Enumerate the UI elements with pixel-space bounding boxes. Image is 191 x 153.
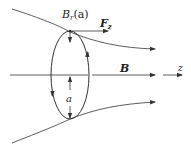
field-label: B bbox=[119, 62, 129, 75]
axis-label: z bbox=[177, 63, 183, 73]
lower-field-line bbox=[12, 102, 155, 143]
radius-label: a bbox=[66, 93, 72, 104]
diagram-canvas: Br(a) Fz B z a bbox=[0, 0, 191, 153]
radial-field-label: Br(a) bbox=[61, 8, 89, 22]
force-label: Fz bbox=[99, 17, 113, 31]
